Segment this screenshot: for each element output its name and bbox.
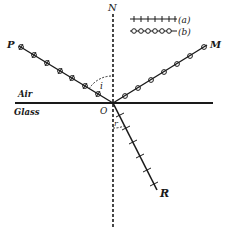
- legend: (a) (b): [130, 15, 191, 37]
- origin-label: O: [100, 106, 108, 116]
- legend-item-b: (b): [130, 27, 191, 37]
- angle-r-label: r: [114, 119, 119, 128]
- point-p-label: P: [6, 39, 15, 50]
- legend-item-a: (a): [130, 15, 191, 25]
- incident-ray: [19, 46, 113, 103]
- point-m-label: M: [209, 39, 222, 50]
- legend-a-label: (a): [178, 15, 191, 25]
- air-label: Air: [17, 89, 33, 99]
- normal-label: N: [107, 2, 118, 13]
- refracted-ray: [113, 103, 157, 190]
- refraction-diagram: N Air Glass O P M: [0, 0, 226, 228]
- legend-b-label: (b): [178, 27, 191, 37]
- glass-label: Glass: [14, 107, 40, 117]
- angle-i-label: i: [100, 81, 103, 91]
- point-r-label: R: [159, 187, 169, 200]
